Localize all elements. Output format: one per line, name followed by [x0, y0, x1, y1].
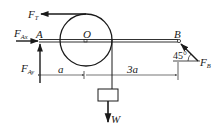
tension-force-label: FT: [27, 8, 39, 21]
weight-block: [98, 89, 118, 101]
point-b-pin: [177, 39, 180, 42]
point-a-label: A: [35, 28, 43, 40]
angle-label: 45°: [173, 50, 187, 61]
point-b-label: B: [174, 28, 181, 40]
force-ay-label: FAy: [20, 62, 34, 75]
weight-label: W: [111, 113, 121, 125]
force-ax-label: FAx: [13, 27, 28, 40]
dimension-a-label: a: [58, 63, 64, 75]
pulley-circle: [60, 14, 112, 66]
force-b-label: FB: [199, 56, 211, 69]
dimension-3a-label: 3a: [126, 63, 139, 75]
point-o-label: O: [83, 28, 91, 40]
angle-arc: [188, 54, 191, 61]
statics-diagram: FT W A O B FAx FAy 45° FB a 3a: [0, 0, 223, 136]
